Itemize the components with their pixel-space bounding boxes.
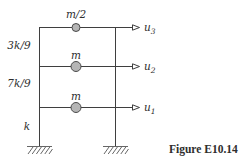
mass-circle-floor3 [72, 24, 80, 32]
mass-circle-floor1 [71, 103, 81, 113]
mass-label-floor2: m [71, 49, 81, 61]
shear-frame-diagram: m/2 m m 3k/9 7k/9 k u3 u2 u1 Figure E10.… [0, 0, 245, 166]
hatch-icon [28, 147, 33, 154]
hatch-icon [117, 147, 122, 154]
mass-label-floor1: m [71, 90, 81, 102]
hatch-icon [108, 147, 113, 154]
hatch-icon [32, 147, 37, 154]
hatch-icon [121, 147, 126, 154]
hatch-icon [104, 147, 109, 154]
dof-arrow-u1 [116, 105, 140, 110]
stiffness-label-story2: 7k/9 [7, 77, 31, 89]
dof-label-u1: u1 [144, 101, 156, 116]
dof-label-u1-subscript: 1 [151, 107, 156, 116]
arrowhead-u3-icon [133, 25, 140, 30]
dof-label-u3: u3 [144, 21, 156, 36]
mass-label-floor3: m/2 [66, 8, 86, 20]
dof-label-u2-subscript: 2 [150, 66, 156, 75]
hatch-icon [36, 147, 41, 154]
hatch-icon [41, 147, 46, 154]
dof-arrow-u3 [116, 25, 140, 30]
arrowhead-u1-icon [133, 105, 140, 110]
hatch-icon [45, 147, 50, 154]
figure-canvas: m/2 m m 3k/9 7k/9 k u3 u2 u1 Figure E10.… [0, 0, 245, 166]
hatch-icon [125, 149, 129, 154]
ground-support-right [103, 147, 129, 155]
figure-caption: Figure E10.14 [169, 143, 238, 156]
dof-label-u2: u2 [144, 60, 156, 75]
mass-circle-floor2 [71, 62, 81, 72]
stiffness-label-story1: k [24, 120, 30, 132]
arrowhead-u2-icon [133, 64, 140, 69]
ground-support-left [27, 147, 53, 155]
dof-label-u3-subscript: 3 [151, 27, 156, 36]
dof-arrow-u2 [116, 64, 140, 69]
hatch-icon [49, 149, 53, 154]
hatch-icon [112, 147, 117, 154]
stiffness-label-story3: 3k/9 [7, 39, 31, 51]
